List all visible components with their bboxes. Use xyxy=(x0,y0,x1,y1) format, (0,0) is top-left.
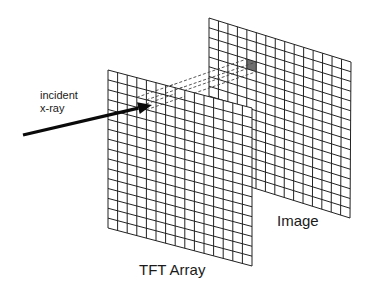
image-label: Image xyxy=(277,213,319,228)
tft-array-label: TFT Array xyxy=(139,262,205,277)
incident-label-line1: incident xyxy=(40,89,78,102)
incident-xray-label: incident x-ray xyxy=(40,89,78,115)
incident-label-line2: x-ray xyxy=(40,102,78,115)
detector-diagram xyxy=(0,0,369,297)
